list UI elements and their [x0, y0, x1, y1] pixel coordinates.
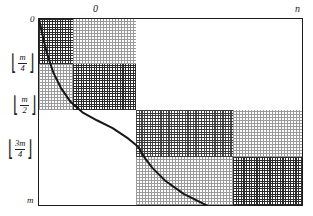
x-axis-max-label: n	[295, 4, 300, 14]
floor-bracket-left-icon: ⌊	[13, 94, 19, 116]
quadrant-block-q4-dark-inner	[233, 157, 302, 205]
y-tick-floor-3m-over-4: ⌊ 3m 4 ⌋	[6, 136, 34, 162]
fraction-denominator: 4	[20, 64, 24, 73]
block-layer	[39, 19, 302, 205]
quadrant-block-q2-blank	[136, 19, 302, 110]
quadrant-block-q1-light-below	[39, 64, 73, 111]
plot-frame	[38, 18, 303, 206]
quadrant-block-q3-blank	[39, 110, 136, 205]
y-tick-floor-m-over-4: ⌊ m 4 ⌋	[9, 50, 36, 76]
y-axis-max-label: m	[27, 196, 34, 205]
floor-bracket-left-icon: ⌊	[8, 138, 14, 160]
quadrant-block-q4-mid	[136, 110, 233, 157]
fraction-denominator: 4	[18, 150, 22, 159]
floor-bracket-right-icon: ⌋	[31, 94, 37, 116]
figure-root: 0 n 0 m ⌊ m 4 ⌋ ⌊ m 2 ⌋ ⌊ 3m 4 ⌋	[0, 0, 313, 216]
y-tick-floor-m-over-2: ⌊ m 2 ⌋	[11, 92, 38, 118]
quadrant-block-q4-light-below	[136, 157, 233, 205]
fraction-denominator: 2	[22, 106, 26, 115]
floor-bracket-right-icon: ⌋	[27, 138, 33, 160]
y-axis-origin-label: 0	[30, 15, 35, 24]
floor-bracket-right-icon: ⌋	[29, 52, 35, 74]
x-axis-origin-label: 0	[93, 4, 98, 14]
quadrant-block-q1-light-right	[73, 19, 136, 64]
quadrant-block-q4-light-right	[233, 110, 302, 157]
floor-bracket-left-icon: ⌊	[11, 52, 17, 74]
fraction-numerator: m	[19, 53, 25, 62]
fraction-numerator: 3m	[15, 139, 25, 148]
quadrant-block-q1-dark-inner	[73, 64, 136, 111]
fraction-numerator: m	[21, 95, 27, 104]
quadrant-block-q1-dark	[39, 19, 73, 64]
